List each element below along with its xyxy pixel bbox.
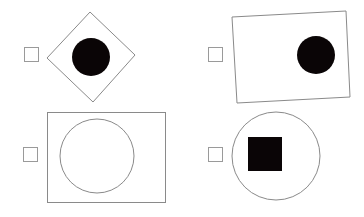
rectangle-shape <box>48 113 166 203</box>
option-figure-top-right <box>232 11 350 103</box>
option-figure-bottom-right <box>232 112 320 200</box>
filled-circle-shape <box>297 36 335 74</box>
outline-circle-shape <box>60 119 134 193</box>
option-figures <box>0 0 364 217</box>
filled-circle-shape <box>72 38 110 76</box>
option-figure-bottom-left <box>48 113 166 203</box>
option-figure-top-left <box>47 12 135 102</box>
filled-square-shape <box>248 137 282 171</box>
